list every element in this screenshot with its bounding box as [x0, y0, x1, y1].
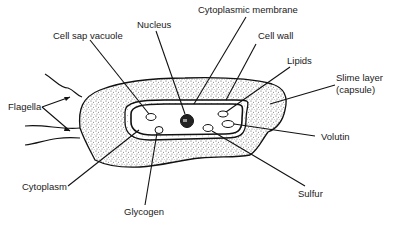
label-flagella: Flagella: [8, 101, 42, 112]
label-slime-layer-note: (capsule): [336, 84, 375, 95]
flagellum-1: [45, 74, 82, 97]
label-glycogen: Glycogen: [124, 206, 164, 217]
label-slime-layer: Slime layer: [336, 72, 383, 83]
label-nucleus: Nucleus: [137, 19, 172, 30]
bacterial-cell-diagram: Nucleus Cytoplasmic membrane Cell sap va…: [0, 0, 394, 225]
nucleus-highlight: [183, 119, 187, 122]
sulfur-granule: [203, 125, 213, 132]
label-volutin: Volutin: [321, 131, 350, 142]
cell-sap-vacuole-shape: [146, 114, 156, 121]
flagellum-3: [25, 138, 80, 145]
label-sulfur: Sulfur: [298, 188, 323, 199]
volutin-granule: [222, 121, 234, 128]
flagellum-2: [25, 126, 80, 129]
label-cell-wall: Cell wall: [258, 30, 293, 41]
label-cytoplasmic-membrane: Cytoplasmic membrane: [198, 4, 298, 15]
label-cytoplasm: Cytoplasm: [22, 181, 67, 192]
label-cell-sap-vacuole: Cell sap vacuole: [53, 30, 123, 41]
arrowhead-flagella-lower: [64, 127, 70, 131]
label-lipids: Lipids: [287, 55, 312, 66]
glycogen-granule: [155, 127, 163, 134]
